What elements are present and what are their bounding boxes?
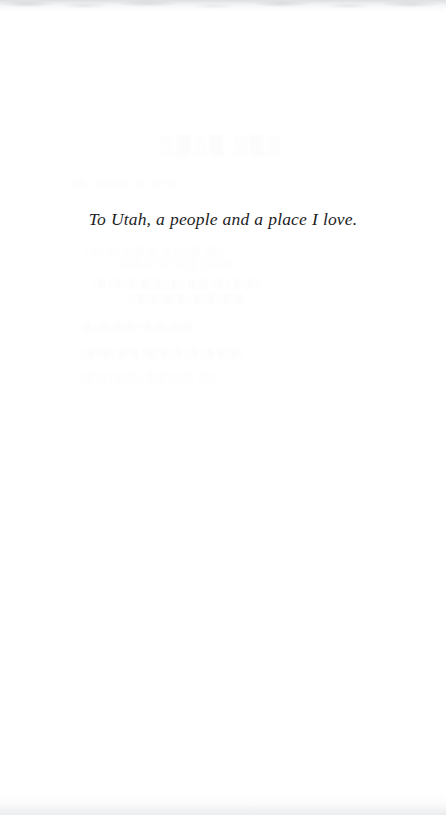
scanned-dedication-page: ░▒░▒ ░▒░ ░▒░ ▒░▒░▒ ░▒ ░▒░▒░░▒░▒░ ▒░▒░▒░▒… xyxy=(0,0,446,815)
ghost-line: ▒░▒░▒░▒ ░▒░▒ ░▒░▒░ xyxy=(120,258,234,268)
ghost-line: ░ ▒░▒░▒░▒░ ▒░▒ ░▒░▒ xyxy=(128,293,244,303)
ghost-line: ░▒ ░▒░▒░▒░ ▒░▒░▒░▒ xyxy=(78,322,192,332)
ghost-line: ░▒░▒░ ▒░▒ ░▒░▒░▒ ░▒ ░▒ ▒░▒░ xyxy=(82,348,244,358)
scan-edge-top xyxy=(0,0,446,14)
scan-speckle xyxy=(0,0,446,10)
ghost-line: ░▒ ░▒░▒░▒░▒░ ▒░ ▒░▒ ░▒░ ▒░▒░ xyxy=(92,278,261,288)
ghost-title-line: ░▒░▒ ░▒░ xyxy=(160,134,283,156)
ghost-line: ░▒░ ▒░▒░▒ ░▒ ░▒░▒░ xyxy=(72,178,182,188)
dedication-text: To Utah, a people and a place I love. xyxy=(0,208,446,230)
ghost-line: ░▒░▒ ░▒░▒░ ▒░▒░▒░▒ ░▒░ xyxy=(80,372,217,382)
ghost-line: ░▒░▒░ ▒░▒░▒░▒ ░▒░▒ ░▒░ xyxy=(86,246,223,256)
scan-edge-bottom xyxy=(0,789,446,815)
ghost-bleedthrough-layer: ░▒░▒ ░▒░ ░▒░ ▒░▒░▒ ░▒ ░▒░▒░░▒░▒░ ▒░▒░▒░▒… xyxy=(0,0,446,815)
